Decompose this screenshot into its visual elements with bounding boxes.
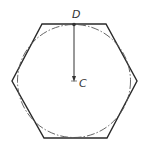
point-d-marker xyxy=(72,23,76,27)
label-d: D xyxy=(72,8,80,21)
hexagon-diagram: D C xyxy=(0,0,148,152)
label-c: C xyxy=(79,77,87,90)
